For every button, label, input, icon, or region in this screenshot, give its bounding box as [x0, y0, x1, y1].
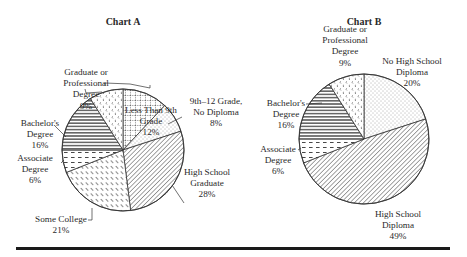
slice-label-graduate-or-professional-degree: Graduate orProfessionalDegree9% — [322, 24, 368, 68]
leader-line-some-college — [88, 208, 92, 220]
bottom-rule — [16, 247, 450, 250]
slice-label-associate-degree: AssociateDegree6% — [260, 144, 296, 176]
slice-label-high-school-diploma: High SchoolDiploma49% — [375, 209, 422, 241]
leader-line-high-school-graduate — [172, 185, 184, 203]
pie-charts-canvas: Chart ALess Than 9thGrade12%9th–12 Grade… — [0, 0, 467, 257]
slice-label-bachelor-s-degree: Bachelor'sDegree16% — [267, 98, 306, 130]
slice-label-some-college: Some College21% — [35, 214, 87, 235]
pie-chart-chart-a: Chart ALess Than 9thGrade12%9th–12 Grade… — [17, 16, 242, 235]
slice-label-high-school-graduate: High SchoolGraduate28% — [184, 167, 231, 199]
slice-label-9th-12-grade-no-diploma: 9th–12 Grade,No Diploma8% — [190, 96, 243, 128]
slice-label-bachelor-s-degree: Bachelor'sDegree16% — [21, 118, 60, 150]
figure: Chart ALess Than 9thGrade12%9th–12 Grade… — [0, 0, 467, 257]
pie-chart-chart-b: Chart BNo High SchoolDiploma20%High Scho… — [260, 16, 442, 241]
slice-label-associate-degree: AssociateDegree6% — [17, 153, 53, 185]
leader-line-less-than-9th-grade — [105, 83, 150, 88]
chart-title: Chart A — [106, 16, 142, 27]
